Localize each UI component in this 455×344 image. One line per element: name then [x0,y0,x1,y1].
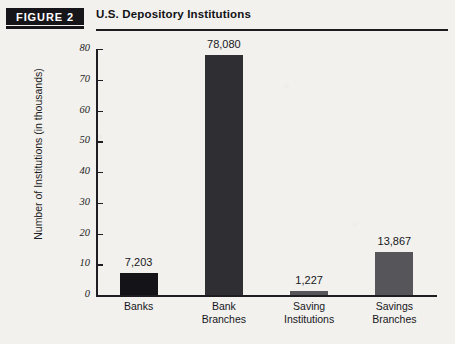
bar [375,252,413,295]
x-axis-category-line: Savings [376,300,413,312]
bar-value-label: 1,227 [269,274,349,286]
bar [205,55,243,295]
y-axis-tick-label: 20 [64,227,90,238]
x-axis-category-line: Branches [202,313,246,325]
x-axis-category-line: Saving [293,300,325,312]
figure-header: FIGURE 2 U.S. Depository Institutions [0,4,455,30]
y-axis-tick-label: 70 [64,73,90,84]
figure-badge-underline [6,26,84,29]
figure-title: U.S. Depository Institutions [96,8,251,20]
y-axis-tick-label: 50 [64,134,90,145]
y-axis-tick-label: 0 [64,288,90,299]
x-axis-category-label: SavingsBranches [349,300,439,325]
y-axis-title: Number of Institutions (in thousands) [32,44,44,264]
x-axis-line [96,295,437,297]
x-axis-category-label: Banks [94,300,184,313]
x-axis-category-label: SavingInstitutions [264,300,354,325]
y-axis-tick-label: 30 [64,196,90,207]
x-axis-category-line: Bank [212,300,236,312]
y-axis-tick-label: 60 [64,104,90,115]
x-axis-category-line: Banks [124,300,153,312]
y-axis-tick [96,295,103,296]
x-axis-category-line: Institutions [284,313,334,325]
figure-badge: FIGURE 2 [6,8,84,25]
bar-value-label: 78,080 [184,38,264,50]
y-axis-tick-label: 80 [64,42,90,53]
x-axis-category-line: Branches [372,313,416,325]
bar-value-label: 13,867 [354,235,434,247]
x-axis-category-label: BankBranches [179,300,269,325]
bar [120,273,158,295]
bar-value-label: 7,203 [99,256,179,268]
y-axis-tick-label: 10 [64,257,90,268]
bar [290,291,328,295]
bar-chart: Number of Institutions (in thousands) 01… [0,30,455,344]
y-axis-tick-label: 40 [64,165,90,176]
